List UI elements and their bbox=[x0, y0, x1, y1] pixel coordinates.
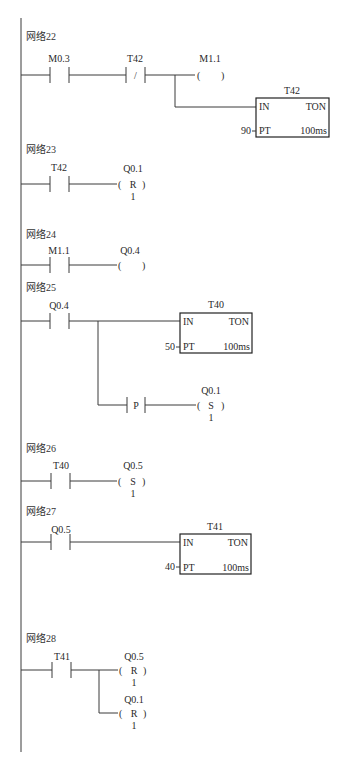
svg-text:(: ( bbox=[119, 708, 123, 720]
contact-no-icon bbox=[50, 176, 69, 192]
contact-no-icon bbox=[52, 662, 71, 678]
svg-text:): ) bbox=[142, 476, 145, 488]
contact-address: M1.1 bbox=[48, 245, 69, 256]
contact-no-icon bbox=[51, 473, 70, 489]
network-22: 网络22 M0.3 / T42 ( ) M1.1 T42 IN TON PT bbox=[21, 30, 329, 137]
svg-text:TON: TON bbox=[229, 316, 249, 327]
network-label: 网络27 bbox=[26, 505, 56, 517]
svg-text:): ) bbox=[142, 179, 145, 191]
svg-text:S: S bbox=[208, 400, 214, 411]
coil-count: 1 bbox=[209, 412, 214, 423]
svg-text:S: S bbox=[130, 476, 136, 487]
contact-address: Q0.5 bbox=[51, 524, 71, 535]
contact-no-icon bbox=[50, 257, 69, 273]
svg-text:(: ( bbox=[119, 665, 123, 677]
preset-value: 90 bbox=[241, 125, 251, 136]
network-label: 网络22 bbox=[26, 30, 56, 42]
coil-address: Q0.4 bbox=[120, 245, 140, 256]
network-label: 网络23 bbox=[26, 143, 56, 155]
contact-no-icon bbox=[51, 534, 70, 550]
svg-text:PT: PT bbox=[183, 562, 195, 573]
contact-address: M0.3 bbox=[48, 53, 69, 64]
svg-text:P: P bbox=[133, 400, 139, 411]
coil-address: Q0.5 bbox=[124, 651, 144, 662]
timer-block-t41: T41 IN TON PT 100ms 40 bbox=[165, 521, 251, 574]
svg-text:100ms: 100ms bbox=[222, 562, 249, 573]
svg-text:IN: IN bbox=[183, 316, 194, 327]
contact-no-icon bbox=[50, 67, 69, 83]
set-coil-icon: ( S ) bbox=[197, 400, 224, 412]
svg-text:TON: TON bbox=[228, 537, 248, 548]
timer-name: T40 bbox=[208, 299, 224, 310]
svg-text:): ) bbox=[143, 708, 146, 720]
svg-text:IN: IN bbox=[183, 537, 194, 548]
timer-block-t40: T40 IN TON PT 100ms 50 bbox=[165, 299, 252, 353]
svg-text:100ms: 100ms bbox=[300, 125, 327, 136]
coil-icon: ( ) bbox=[197, 70, 224, 82]
svg-text:100ms: 100ms bbox=[223, 341, 250, 352]
svg-text:(: ( bbox=[118, 260, 122, 272]
coil-icon: ( ) bbox=[118, 260, 145, 272]
contact-address: T40 bbox=[53, 460, 69, 471]
coil-count: 1 bbox=[131, 191, 136, 202]
ladder-diagram: 网络22 M0.3 / T42 ( ) M1.1 T42 IN TON PT bbox=[0, 0, 347, 769]
contact-address: T42 bbox=[51, 162, 67, 173]
network-label: 网络26 bbox=[26, 442, 56, 454]
contact-no-icon bbox=[50, 313, 69, 329]
coil-address: Q0.1 bbox=[124, 694, 144, 705]
coil-address: Q0.1 bbox=[201, 385, 221, 396]
network-label: 网络25 bbox=[26, 281, 56, 293]
preset-value: 50 bbox=[165, 341, 175, 352]
svg-text:): ) bbox=[142, 260, 145, 272]
svg-text:(: ( bbox=[118, 476, 122, 488]
coil-count: 1 bbox=[132, 677, 137, 688]
contact-address: Q0.4 bbox=[49, 300, 69, 311]
coil-address: Q0.5 bbox=[123, 460, 143, 471]
svg-text:/: / bbox=[134, 70, 137, 81]
network-label: 网络24 bbox=[26, 228, 56, 240]
set-coil-icon: ( S ) bbox=[118, 476, 145, 488]
contact-address: T41 bbox=[54, 651, 70, 662]
network-25: 网络25 Q0.4 T40 IN TON PT 100ms 50 P ( bbox=[21, 281, 252, 423]
network-26: 网络26 T40 ( S ) Q0.5 1 bbox=[21, 442, 145, 499]
timer-name: T41 bbox=[207, 521, 223, 532]
svg-text:PT: PT bbox=[183, 341, 195, 352]
svg-text:(: ( bbox=[118, 179, 122, 191]
network-24: 网络24 M1.1 ( ) Q0.4 bbox=[21, 228, 145, 273]
coil-address: Q0.1 bbox=[123, 163, 143, 174]
contact-nc-icon: / bbox=[126, 67, 145, 83]
positive-edge-icon: P bbox=[127, 397, 145, 413]
svg-text:PT: PT bbox=[259, 125, 271, 136]
preset-value: 40 bbox=[165, 561, 175, 572]
network-27: 网络27 Q0.5 T41 IN TON PT 100ms 40 bbox=[21, 505, 251, 574]
svg-text:): ) bbox=[221, 400, 224, 412]
reset-coil-icon: ( R ) bbox=[119, 708, 146, 720]
svg-text:): ) bbox=[221, 70, 224, 82]
coil-count: 1 bbox=[132, 720, 137, 731]
coil-count: 1 bbox=[131, 488, 136, 499]
timer-name: T42 bbox=[284, 85, 300, 96]
network-label: 网络28 bbox=[26, 632, 56, 644]
reset-coil-icon: ( R ) bbox=[119, 665, 146, 677]
svg-text:R: R bbox=[131, 665, 138, 676]
timer-block-t42: T42 IN TON PT 100ms 90 bbox=[241, 85, 329, 137]
svg-text:R: R bbox=[131, 708, 138, 719]
svg-text:(: ( bbox=[197, 70, 201, 82]
reset-coil-icon: ( R ) bbox=[118, 179, 145, 191]
coil-address: M1.1 bbox=[199, 53, 220, 64]
svg-text:TON: TON bbox=[306, 101, 326, 112]
network-23: 网络23 T42 ( R ) Q0.1 1 bbox=[21, 143, 145, 202]
contact-address: T42 bbox=[127, 53, 143, 64]
svg-text:(: ( bbox=[197, 400, 201, 412]
svg-text:R: R bbox=[130, 179, 137, 190]
network-28: 网络28 T41 ( R ) Q0.5 1 ( R ) Q0.1 1 bbox=[21, 632, 146, 731]
svg-text:IN: IN bbox=[259, 101, 270, 112]
svg-text:): ) bbox=[143, 665, 146, 677]
